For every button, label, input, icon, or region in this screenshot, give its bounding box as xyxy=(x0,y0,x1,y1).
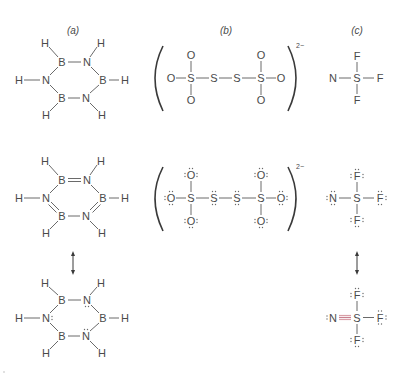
tetrathionate-lewis: 2− O S S S S O O O O O xyxy=(155,163,304,232)
atom-o: O xyxy=(167,72,176,84)
atom-n: N xyxy=(83,56,91,68)
atom-s: S xyxy=(353,312,360,324)
atom-f: F xyxy=(354,214,361,226)
atom-n: N xyxy=(82,330,90,342)
atom-h: H xyxy=(15,192,23,204)
triple-bond-highlight xyxy=(339,316,351,320)
atom-f: F xyxy=(354,334,361,346)
atom-h: H xyxy=(15,74,23,86)
atom-h: H xyxy=(42,227,50,239)
ion-charge: 2− xyxy=(296,163,304,170)
borazine-resonance-lone-pairs: H H B N H N B H B N H H xyxy=(15,277,129,359)
atom-s: S xyxy=(210,192,217,204)
tetrathionate-skeleton: 2− O S S S S O O O O O xyxy=(155,42,304,112)
atom-h: H xyxy=(98,109,106,121)
atom-o: O xyxy=(187,169,196,181)
borazine-skeleton: H H B N H N B H B N H H xyxy=(15,37,129,121)
atom-o: O xyxy=(257,169,266,181)
atom-f: F xyxy=(354,289,361,301)
atom-o: O xyxy=(257,49,266,61)
atom-b: B xyxy=(58,210,65,222)
atom-s: S xyxy=(233,72,240,84)
atom-b: B xyxy=(58,92,65,104)
atom-f: F xyxy=(354,170,361,182)
lewis-structures-figure: (a) (b) (c) H H B N H N B H B N H H xyxy=(0,0,407,376)
nsf3-lewis-single: N S F F F xyxy=(326,169,386,227)
atom-b: B xyxy=(58,330,65,342)
atom-n: N xyxy=(42,192,50,204)
atom-h: H xyxy=(121,192,129,204)
atom-o: O xyxy=(257,94,266,106)
atom-o: O xyxy=(277,192,286,204)
atom-h: H xyxy=(97,37,105,49)
nsf3-lewis-triple: N S F F F xyxy=(326,288,386,347)
borazine-resonance-double-bonds: H H B N H N B H B N H H xyxy=(15,155,129,239)
atom-n: N xyxy=(42,74,50,86)
resonance-arrow-a xyxy=(71,251,75,275)
atom-s: S xyxy=(353,192,360,204)
atom-b: B xyxy=(58,56,65,68)
atom-n: N xyxy=(82,92,90,104)
panel-label-a: (a) xyxy=(67,25,79,36)
atom-f: F xyxy=(354,94,361,106)
ion-charge: 2− xyxy=(296,42,304,49)
atom-b: B xyxy=(58,294,65,306)
atom-b: B xyxy=(99,312,106,324)
atom-h: H xyxy=(15,312,23,324)
atom-h: H xyxy=(42,347,50,359)
atom-s: S xyxy=(257,192,264,204)
atom-s: S xyxy=(210,72,217,84)
atom-h: H xyxy=(98,347,106,359)
atom-h: H xyxy=(121,74,129,86)
atom-o: O xyxy=(187,94,196,106)
panel-label-c: (c) xyxy=(351,25,363,36)
atom-o: O xyxy=(167,192,176,204)
atom-f: F xyxy=(354,50,361,62)
atom-o: O xyxy=(187,49,196,61)
atom-s: S xyxy=(187,72,194,84)
atom-o: O xyxy=(277,72,286,84)
atom-b: B xyxy=(58,174,65,186)
atom-b: B xyxy=(99,192,106,204)
atom-o: O xyxy=(257,215,266,227)
atom-f: F xyxy=(377,192,384,204)
atom-h: H xyxy=(41,277,49,289)
nsf3-skeleton: N S F F F xyxy=(329,50,384,106)
corner-mark xyxy=(3,371,5,373)
atom-n: N xyxy=(329,192,337,204)
panel-label-b: (b) xyxy=(220,25,232,36)
atom-h: H xyxy=(41,37,49,49)
atom-n: N xyxy=(82,210,90,222)
atom-n: N xyxy=(42,312,50,324)
atom-h: H xyxy=(41,155,49,167)
atom-b: B xyxy=(99,74,106,86)
atom-s: S xyxy=(187,192,194,204)
atom-n: N xyxy=(329,312,337,324)
atom-n: N xyxy=(83,174,91,186)
atom-n: N xyxy=(329,72,337,84)
resonance-arrow-c xyxy=(355,251,359,275)
atom-n: N xyxy=(83,294,91,306)
atom-h: H xyxy=(121,312,129,324)
atom-h: H xyxy=(97,277,105,289)
atom-s: S xyxy=(257,72,264,84)
atom-s: S xyxy=(353,72,360,84)
atom-f: F xyxy=(377,72,384,84)
atom-h: H xyxy=(42,109,50,121)
atom-h: H xyxy=(97,155,105,167)
atom-f: F xyxy=(377,312,384,324)
atom-o: O xyxy=(187,215,196,227)
atom-h: H xyxy=(98,227,106,239)
atom-s: S xyxy=(233,192,240,204)
